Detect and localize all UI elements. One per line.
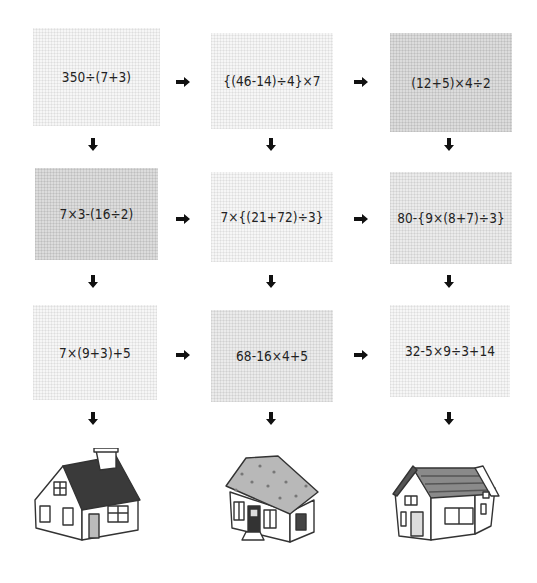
down-arrow-icon [266, 275, 276, 288]
expression-text: {(46-14)÷4}×7 [223, 73, 320, 89]
house-cross-gable-icon [391, 464, 503, 546]
expression-text: 68-16×4+5 [236, 348, 308, 364]
expression-box-r3c2: 68-16×4+5 [211, 310, 333, 402]
expression-text: 80-{9×(8+7)÷3} [397, 210, 505, 226]
down-arrow-icon [444, 412, 454, 425]
expression-box-r2c3: 80-{9×(8+7)÷3} [390, 172, 512, 264]
right-arrow-icon [176, 77, 190, 87]
down-arrow-icon [88, 412, 98, 425]
house-hipped-roof-icon [222, 452, 330, 552]
right-arrow-icon [354, 350, 368, 360]
expression-text: 350÷(7+3) [62, 69, 131, 85]
expression-box-r3c3: 32-5×9÷3+14 [390, 305, 510, 397]
down-arrow-icon [88, 275, 98, 288]
right-arrow-icon [354, 214, 368, 224]
down-arrow-icon [444, 138, 454, 151]
expression-box-r1c3: (12+5)×4÷2 [390, 33, 512, 132]
down-arrow-icon [266, 138, 276, 151]
expression-text: 7×3-(16÷2) [60, 206, 134, 222]
expression-text: 7×(9+3)+5 [59, 345, 131, 361]
expression-text: (12+5)×4÷2 [411, 75, 491, 91]
down-arrow-icon [88, 138, 98, 151]
expression-box-r2c2: 7×{(21+72)÷3} [211, 172, 333, 262]
house-with-chimney-icon [30, 448, 142, 556]
expression-box-r1c1: 350÷(7+3) [33, 28, 160, 126]
right-arrow-icon [354, 77, 368, 87]
expression-box-r3c1: 7×(9+3)+5 [33, 305, 157, 400]
expression-text: 7×{(21+72)÷3} [220, 209, 323, 225]
right-arrow-icon [176, 350, 190, 360]
expression-text: 32-5×9÷3+14 [405, 343, 495, 359]
expression-box-r1c2: {(46-14)÷4}×7 [211, 33, 333, 129]
expression-box-r2c1: 7×3-(16÷2) [35, 168, 158, 260]
down-arrow-icon [444, 275, 454, 288]
right-arrow-icon [176, 214, 190, 224]
down-arrow-icon [266, 412, 276, 425]
